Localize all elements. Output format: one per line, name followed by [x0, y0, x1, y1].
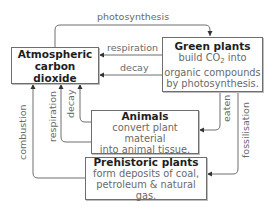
combustion-arrow — [33, 84, 85, 178]
photosynthesis-label: photosynthesis — [97, 12, 169, 22]
fossilisation-label: fossilisation — [241, 102, 251, 158]
node-title: carbon dioxide — [12, 60, 98, 84]
node-body: into animal tissue. — [92, 144, 198, 155]
node-body: form deposits of coal, — [86, 168, 206, 179]
node-body: petroleum & natural gas. — [86, 179, 206, 201]
node-body: convert plant material — [92, 122, 198, 144]
node-title: Green plants — [163, 40, 262, 52]
green-plants-node: Green plants build CO2 into organic comp… — [162, 37, 263, 92]
animal-decay-arrow — [80, 84, 91, 122]
eaten-label: eaten — [222, 95, 232, 122]
atmospheric-carbon-dioxide-node: Atmospheric carbon dioxide — [11, 47, 99, 84]
node-body: organic compounds — [163, 67, 262, 78]
animals-node: Animals convert plant material into anim… — [91, 110, 199, 154]
node-body: by photosynthesis. — [163, 78, 262, 89]
animal-decay-label: decay — [66, 89, 76, 118]
plant-respiration-label: respiration — [107, 43, 158, 53]
node-title: Prehistoric plants — [86, 156, 206, 168]
node-title: Atmospheric — [12, 48, 98, 60]
prehistoric-plants-node: Prehistoric plants form deposits of coal… — [85, 157, 207, 200]
node-title: Animals — [92, 110, 198, 122]
node-body: build CO2 into — [163, 52, 262, 67]
animal-respiration-label: respiration — [48, 91, 58, 142]
plant-decay-label: decay — [120, 63, 149, 73]
combustion-label: combustion — [18, 105, 28, 161]
eaten-arrow — [199, 91, 220, 130]
